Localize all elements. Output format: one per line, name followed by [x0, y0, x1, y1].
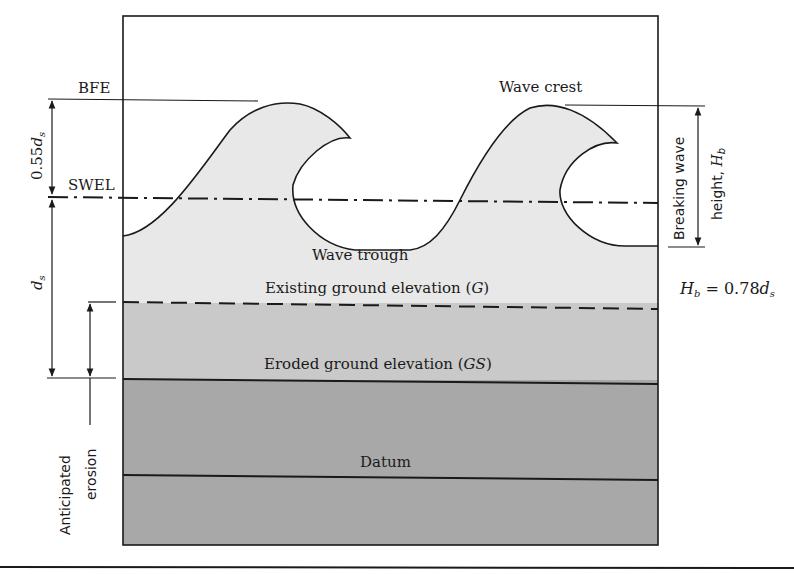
- breaking-wave-label-2: height, Hb: [709, 148, 727, 220]
- eroded-ground-label: Eroded ground elevation (GS): [264, 355, 492, 373]
- bfe-label: BFE: [78, 79, 110, 97]
- wave-crest-line: [565, 105, 705, 106]
- anticipated-erosion-label-1: Anticipated: [57, 455, 73, 535]
- dim-ds-label: ds: [28, 275, 47, 290]
- hb-equation: Hb = 0.78ds: [679, 279, 775, 299]
- bfe-line: [48, 99, 258, 101]
- breaking-wave-label-1: Breaking wave: [671, 137, 687, 240]
- wave-trough-label: Wave trough: [312, 246, 409, 264]
- anticipated-erosion-label-2: erosion: [83, 449, 99, 500]
- swel-label: SWEL: [68, 176, 115, 194]
- existing-ground-label: Existing ground elevation (G): [265, 279, 489, 297]
- wave-crest-label: Wave crest: [499, 78, 582, 96]
- breaking-wave-diagram: BFE SWEL Wave crest Wave trough Existing…: [0, 0, 794, 574]
- datum-label: Datum: [360, 453, 411, 471]
- caption-rule: [0, 567, 794, 568]
- dim-055ds-label: 0.55ds: [28, 132, 47, 180]
- swel-line: [48, 197, 658, 203]
